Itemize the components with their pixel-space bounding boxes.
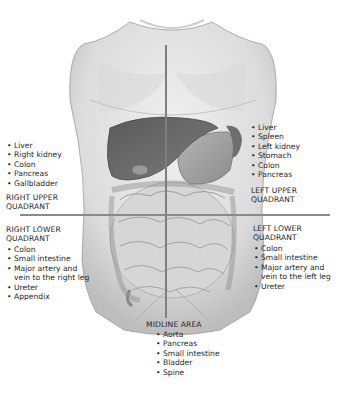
- list-item: Colon: [6, 160, 62, 169]
- title-line: RIGHT UPPER: [6, 193, 58, 202]
- list-item: Stomach: [250, 151, 300, 160]
- list-item: Gallbladder: [6, 179, 62, 188]
- list-item: Small intestine: [253, 253, 331, 262]
- list-item: Small intestine: [6, 254, 89, 263]
- left-upper-quadrant-list: Liver Spleen Left kidney Stomach Colon P…: [250, 123, 300, 179]
- right-upper-quadrant-title: RIGHT UPPER QUADRANT: [6, 193, 58, 212]
- title-line: LEFT UPPER: [251, 186, 297, 195]
- list-item: Spleen: [250, 132, 300, 141]
- list-item: Liver: [6, 141, 62, 150]
- list-item: Colon: [6, 245, 89, 254]
- left-lower-quadrant-title: LEFT LOWER QUADRANT: [253, 224, 302, 243]
- gallbladder: [132, 165, 148, 175]
- list-item: Colon: [250, 161, 300, 170]
- list-item: Major artery and: [6, 264, 89, 273]
- list-item: Colon: [253, 244, 331, 253]
- midline-area-list: Aorta Pancreas Small intestine Bladder S…: [155, 330, 220, 377]
- list-item: Liver: [250, 123, 300, 132]
- list-item: Left kidney: [250, 142, 300, 151]
- list-item: Aorta: [155, 330, 220, 339]
- list-item: Pancreas: [250, 170, 300, 179]
- list-item: Pancreas: [6, 169, 62, 178]
- title-line: QUADRANT: [251, 195, 297, 204]
- left-lower-quadrant-list: Colon Small intestine Major artery and v…: [253, 244, 331, 291]
- title-line: LEFT LOWER: [253, 224, 302, 233]
- title-line: RIGHT LOWER: [6, 225, 61, 234]
- right-lower-quadrant-title: RIGHT LOWER QUADRANT: [6, 225, 61, 244]
- title-line: QUADRANT: [6, 202, 58, 211]
- list-item: Spine: [155, 368, 220, 377]
- list-item: Ureter: [253, 282, 331, 291]
- midline-area-title: MIDLINE AREA: [146, 320, 202, 329]
- title-line: QUADRANT: [6, 234, 61, 243]
- list-item: Appendix: [6, 292, 89, 301]
- list-item: Major artery and: [253, 263, 331, 272]
- list-item: Bladder: [155, 358, 220, 367]
- list-item: Right kidney: [6, 150, 62, 159]
- list-item: Ureter: [6, 283, 89, 292]
- right-lower-quadrant-list: Colon Small intestine Major artery and v…: [6, 245, 89, 301]
- right-upper-quadrant-list: Liver Right kidney Colon Pancreas Gallbl…: [6, 141, 62, 188]
- list-item: Small intestine: [155, 349, 220, 358]
- list-item-continuation: vein to the right leg: [6, 273, 89, 282]
- left-upper-quadrant-title: LEFT UPPER QUADRANT: [251, 186, 297, 205]
- list-item-continuation: vein to the left leg: [253, 272, 331, 281]
- list-item: Pancreas: [155, 339, 220, 348]
- title-line: QUADRANT: [253, 233, 302, 242]
